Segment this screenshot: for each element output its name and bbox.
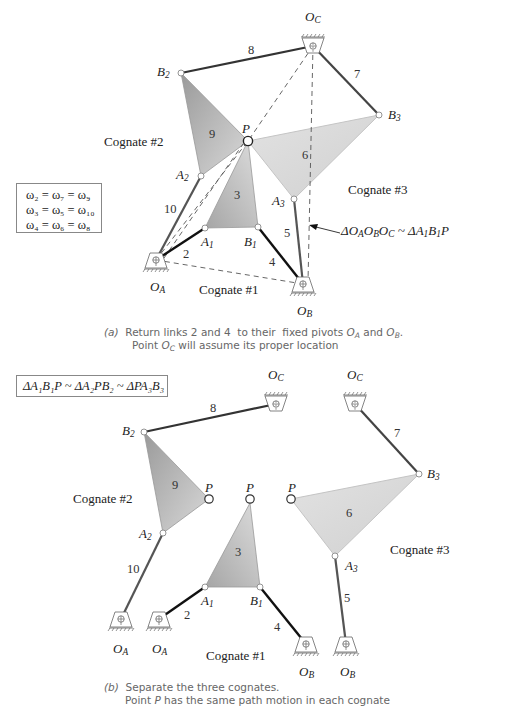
label-b1-b: B1 bbox=[250, 594, 263, 607]
caption-b: (b) Separate the three cognates. Point P… bbox=[104, 681, 390, 707]
coupler-point-p-3 bbox=[246, 495, 254, 503]
joint-a2-b bbox=[160, 530, 166, 536]
label-b1: B1 bbox=[244, 235, 257, 248]
label-a3-b: A3 bbox=[345, 559, 358, 572]
ground-pivot-oc-2 bbox=[343, 392, 367, 411]
link-number-7: 7 bbox=[354, 68, 360, 81]
label-p: P bbox=[242, 122, 250, 135]
label-b3: B3 bbox=[388, 108, 401, 121]
coupler-point-p bbox=[243, 136, 252, 145]
label-a3: A3 bbox=[272, 194, 285, 207]
link-number-6-b: 6 bbox=[346, 507, 352, 520]
label-ob-b1: OB bbox=[299, 665, 314, 678]
label-b2: B2 bbox=[157, 65, 170, 78]
joint-a3 bbox=[291, 196, 297, 202]
coupler-point-p-6 bbox=[287, 495, 295, 503]
link-5 bbox=[294, 199, 303, 284]
figure-b bbox=[108, 392, 422, 656]
joint-a1-b bbox=[202, 584, 208, 590]
label-oa-b1: OA bbox=[113, 642, 128, 655]
cognate-1-label-a: Cognate #1 bbox=[199, 283, 259, 296]
ground-pivot-oa-2 bbox=[146, 612, 172, 631]
link-number-8: 8 bbox=[248, 44, 254, 57]
link-number-9-b: 9 bbox=[172, 479, 178, 492]
ground-pivot-oa-1 bbox=[108, 612, 134, 631]
cognate-3-label-a: Cognate #3 bbox=[348, 183, 408, 196]
label-ob: OB bbox=[297, 304, 312, 317]
caption-b-line-1: (b) Separate the three cognates. bbox=[104, 681, 390, 694]
link-10 bbox=[156, 176, 201, 260]
coupler-link-3-b bbox=[205, 503, 260, 587]
link-10-b bbox=[121, 533, 163, 619]
link-number-10: 10 bbox=[164, 203, 177, 216]
caption-a-line-2: Point OC will assume its proper location bbox=[104, 339, 403, 352]
link-number-5: 5 bbox=[284, 227, 290, 240]
link-number-10-b: 10 bbox=[127, 563, 140, 576]
link-7 bbox=[313, 46, 379, 115]
label-oa: OA bbox=[150, 280, 165, 293]
label-a2-b: A2 bbox=[139, 527, 152, 540]
joint-b1 bbox=[255, 224, 261, 230]
figure-a bbox=[143, 34, 382, 296]
link-number-6: 6 bbox=[302, 149, 308, 162]
ground-pivot-ob-2 bbox=[333, 637, 359, 656]
label-oc: OC bbox=[305, 10, 321, 23]
omega-line-2: ω₃ = ω₅ = ω₁₀ bbox=[26, 203, 101, 218]
joint-b2-b bbox=[141, 429, 147, 435]
joint-b1-b bbox=[257, 584, 263, 590]
joint-b3 bbox=[376, 112, 382, 118]
ground-pivot-ob bbox=[290, 277, 316, 296]
label-ob-b2: OB bbox=[340, 665, 355, 678]
similarity-note-a: ΔOAOBOC ~ ΔA1B1P bbox=[341, 224, 449, 237]
joint-a2 bbox=[198, 173, 204, 179]
link-number-3: 3 bbox=[234, 189, 240, 202]
label-p-6: P bbox=[288, 481, 296, 494]
label-p-9: P bbox=[205, 481, 213, 494]
omega-line-3: ω₄ = ω₆ = ω₈ bbox=[26, 218, 101, 233]
cognate-1-label-b: Cognate #1 bbox=[206, 649, 266, 662]
link-number-8-b: 8 bbox=[210, 402, 216, 415]
label-oc-b1: OC bbox=[268, 368, 284, 381]
link-number-5-b: 5 bbox=[344, 592, 350, 605]
link-4 bbox=[258, 227, 303, 284]
link-4-b bbox=[260, 587, 306, 644]
label-oa-b2: OA bbox=[152, 642, 167, 655]
caption-b-line-2: Point P has the same path motion in each… bbox=[104, 694, 390, 707]
ground-pivot-ob-1 bbox=[293, 637, 319, 656]
link-number-2-b: 2 bbox=[184, 609, 190, 622]
label-a1: A1 bbox=[201, 235, 214, 248]
link-number-7-b: 7 bbox=[394, 427, 400, 440]
omega-line-1: ω₂ = ω₇ = ω₉ bbox=[26, 188, 101, 203]
caption-a-line-1: (a) Return links 2 and 4 to their fixed … bbox=[104, 326, 403, 339]
link-number-4: 4 bbox=[269, 256, 275, 269]
ground-pivot-oc-1 bbox=[264, 392, 288, 411]
joint-b2 bbox=[178, 70, 184, 76]
joint-a3-b bbox=[332, 553, 338, 559]
arrow-head bbox=[309, 224, 318, 230]
label-a1-b: A1 bbox=[201, 594, 214, 607]
joint-b3-b bbox=[416, 471, 422, 477]
angular-velocity-box: ω₂ = ω₇ = ω₉ ω₃ = ω₅ = ω₁₀ ω₄ = ω₆ = ω₈ bbox=[16, 183, 102, 233]
label-b2-b: B2 bbox=[122, 424, 135, 437]
cognate-3-label-b: Cognate #3 bbox=[390, 543, 450, 556]
link-number-2: 2 bbox=[183, 248, 189, 261]
cognate-2-label-b: Cognate #2 bbox=[73, 492, 133, 505]
link-8 bbox=[181, 46, 313, 73]
label-oc-b2: OC bbox=[347, 368, 363, 381]
link-number-4-b: 4 bbox=[274, 621, 280, 634]
coupler-point-p-9 bbox=[205, 495, 213, 503]
ground-pivot-oc bbox=[301, 34, 325, 53]
caption-a: (a) Return links 2 and 4 to their fixed … bbox=[104, 326, 403, 352]
label-a2: A2 bbox=[176, 168, 189, 181]
cognate-2-label-a: Cognate #2 bbox=[104, 135, 164, 148]
link-number-3-b: 3 bbox=[235, 546, 241, 559]
label-p-3: P bbox=[246, 481, 254, 494]
similarity-box-b: ΔA₁B₁P ~ ΔA₂PB₂ ~ ΔPA₃B₃ bbox=[16, 375, 168, 397]
diagram-canvas bbox=[0, 0, 506, 717]
joint-a1 bbox=[202, 225, 208, 231]
link-number-9: 9 bbox=[209, 128, 215, 141]
label-b3-b: B3 bbox=[427, 467, 440, 480]
link-7-b bbox=[355, 404, 419, 474]
